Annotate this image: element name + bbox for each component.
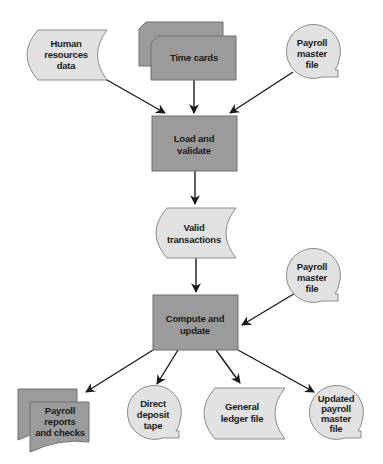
label-line: General xyxy=(225,401,259,412)
label-line: tape xyxy=(144,420,163,431)
node-payroll-master-file-2: Payroll master file xyxy=(286,248,340,302)
node-load-validate: Load and validate xyxy=(152,116,237,171)
label-line: file xyxy=(306,59,319,70)
flowchart-canvas: Human resources data Time cards Payroll … xyxy=(0,0,383,464)
arrow-master-to-load xyxy=(230,72,293,113)
label-line: Valid xyxy=(183,222,205,233)
label-line: validate xyxy=(177,145,211,156)
label-line: update xyxy=(180,325,210,336)
arrow-compute-to-ledger xyxy=(216,350,240,383)
label-line: Payroll xyxy=(45,405,75,416)
arrow-compute-to-updated xyxy=(238,350,314,392)
label-line: master xyxy=(297,272,327,283)
label-line: file xyxy=(330,423,343,434)
node-time-cards: Time cards xyxy=(139,22,236,80)
label-line: Time cards xyxy=(170,52,218,63)
node-updated-payroll-master-file: Updated payroll master file xyxy=(309,385,363,439)
arrow-compute-to-deposit xyxy=(157,350,178,384)
node-valid-transactions: Valid transactions xyxy=(156,208,236,258)
label-line: Payroll xyxy=(297,37,327,48)
arrow-hr-to-load xyxy=(100,76,165,113)
label-line: Payroll xyxy=(297,261,327,272)
label-line: transactions xyxy=(167,234,221,245)
label-line: Load and xyxy=(174,133,215,144)
arrow-master2-to-compute xyxy=(242,292,297,325)
node-direct-deposit-tape: Direct deposit tape xyxy=(127,385,181,439)
label-line: resources xyxy=(44,49,88,60)
node-payroll-master-file: Payroll master file xyxy=(286,24,340,78)
label-line: file xyxy=(306,283,319,294)
node-compute-update: Compute and update xyxy=(153,295,238,350)
label-line: reports xyxy=(44,416,75,427)
stored-data-shape xyxy=(156,208,236,258)
label-line: Compute and xyxy=(166,313,225,324)
label-line: deposit xyxy=(137,409,170,420)
label-line: master xyxy=(297,48,327,59)
arrow-compute-to-reports xyxy=(86,350,153,392)
label-line: Direct xyxy=(140,398,167,409)
label-line: Human xyxy=(50,38,82,49)
label-line: and checks xyxy=(35,427,85,438)
label-line: data xyxy=(57,60,77,71)
node-reports-checks: Payroll reports and checks xyxy=(18,389,89,452)
label-line: ledger file xyxy=(221,413,264,424)
node-hr-data: Human resources data xyxy=(27,30,107,80)
node-general-ledger-file: General ledger file xyxy=(204,388,285,439)
